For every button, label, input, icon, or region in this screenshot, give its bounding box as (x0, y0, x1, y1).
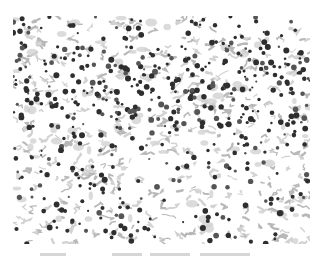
fiber-strand (146, 211, 150, 216)
dark-particle (83, 69, 85, 71)
dark-particle (118, 126, 122, 130)
fiber-strand (67, 180, 72, 187)
dark-particle (268, 60, 274, 66)
dark-particle (99, 172, 104, 177)
dark-particle (200, 68, 204, 72)
fiber-strand (166, 204, 179, 209)
dark-particle (123, 71, 128, 76)
fiber-strand (261, 182, 265, 183)
fiber-strand (217, 134, 221, 137)
dark-particle (206, 219, 210, 223)
dark-particle (293, 112, 299, 118)
dark-particle (30, 155, 34, 159)
dark-particle (14, 156, 19, 161)
dark-particle (102, 177, 108, 183)
dark-particle (234, 169, 237, 172)
fiber-strand (30, 206, 36, 208)
dark-particle (200, 225, 206, 231)
dark-particle (290, 207, 295, 212)
dark-particle (291, 65, 297, 71)
fiber-strand (221, 160, 224, 162)
dark-particle (65, 229, 69, 233)
dark-particle (207, 166, 210, 169)
dark-particle (148, 108, 152, 112)
dark-particle (49, 101, 53, 105)
dark-particle (264, 66, 269, 71)
fiber-strand (133, 202, 141, 206)
background-blotch (255, 162, 262, 167)
dark-particle (194, 88, 200, 94)
fiber-strand (252, 67, 257, 70)
dark-particle (160, 143, 164, 147)
dark-particle (145, 144, 147, 146)
dark-particle (144, 84, 150, 90)
dark-particle (110, 143, 115, 148)
dark-particle (126, 205, 130, 209)
dark-particle (215, 212, 219, 216)
dark-particle (47, 225, 53, 231)
dark-particle (118, 187, 121, 190)
dark-particle (194, 215, 197, 218)
dark-particle (56, 125, 61, 130)
dark-particle (40, 154, 42, 156)
dark-particle (118, 205, 122, 209)
dark-particle (285, 122, 290, 127)
dark-particle (19, 178, 21, 180)
dark-particle (115, 213, 119, 217)
dark-particle (285, 80, 290, 85)
fiber-strand (182, 63, 188, 66)
dark-particle (54, 202, 60, 208)
dark-particle (26, 31, 30, 35)
dark-particle (71, 98, 73, 100)
dark-particle (270, 122, 272, 124)
dark-particle (249, 89, 252, 92)
dark-particle (236, 51, 240, 55)
dark-particle (305, 179, 310, 184)
dark-particle (60, 106, 64, 110)
fiber-strand (291, 152, 299, 155)
dark-particle (153, 64, 157, 68)
fiber-strand (125, 134, 132, 137)
dark-particle (24, 86, 29, 91)
dark-particle (213, 23, 217, 27)
dark-particle (20, 45, 25, 50)
fiber-strand (47, 163, 50, 165)
fiber-strand (248, 123, 253, 127)
fiber-strand (94, 234, 99, 237)
dark-particle (288, 119, 290, 121)
fiber-strand (269, 224, 279, 229)
fiber-strand (18, 105, 22, 108)
fiber-strand (52, 90, 58, 94)
dark-particle (100, 187, 105, 192)
fiber-strand (272, 116, 275, 119)
dark-particle (240, 116, 243, 119)
fiber-strand (118, 234, 124, 238)
dark-particle (221, 215, 226, 220)
fiber-strand (200, 233, 203, 234)
dark-particle (244, 106, 249, 111)
dark-particle (53, 97, 58, 102)
background-blotch (293, 213, 299, 217)
dark-particle (109, 69, 114, 74)
dark-particle (192, 53, 197, 58)
fiber-strand (239, 227, 245, 232)
dark-particle (20, 176, 23, 179)
dark-particle (115, 118, 118, 121)
dark-particle (137, 221, 139, 223)
dark-particle (294, 29, 298, 33)
dark-particle (153, 236, 156, 239)
dark-particle (89, 187, 92, 190)
dark-particle (139, 146, 144, 151)
dark-particle (38, 183, 42, 187)
dark-particle (253, 16, 258, 20)
dark-particle (27, 26, 30, 29)
dark-particle (91, 165, 95, 169)
fiber-strand (246, 98, 250, 100)
dark-particle (171, 109, 176, 114)
dark-particle (47, 157, 51, 161)
dark-particle (289, 87, 293, 91)
dark-particle (253, 146, 258, 151)
background-blotch (259, 210, 265, 214)
caption-fragment (200, 253, 250, 256)
fiber-strand (118, 174, 123, 178)
